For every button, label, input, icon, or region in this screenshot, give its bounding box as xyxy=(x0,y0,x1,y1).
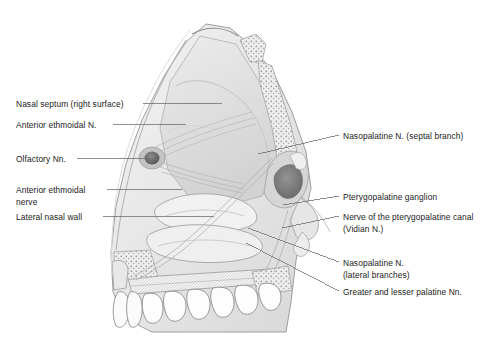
label-lateral-nasal-wall: Lateral nasal wall xyxy=(16,212,82,224)
label-anterior-ethmoidal-nerve-line2: nerve xyxy=(16,197,37,209)
label-vidian-nerve: Nerve of the pterygopalatine canal xyxy=(343,212,473,224)
label-nasopalatine-septal-branch: Nasopalatine N. (septal branch) xyxy=(343,131,463,143)
tooth xyxy=(142,293,163,323)
label-anterior-ethmoidal-nerve: Anterior ethmoidal xyxy=(16,185,85,197)
label-pterygopalatine-ganglion: Pterygopalatine ganglion xyxy=(343,192,437,204)
label-anterior-ethmoidal-n: Anterior ethmoidal N. xyxy=(16,120,96,132)
illustration-body xyxy=(111,24,330,332)
label-nasopalatine-lateral: Nasopalatine N. xyxy=(343,258,404,270)
label-olfactory-nn: Olfactory Nn. xyxy=(16,154,66,166)
incisor-tooth xyxy=(127,292,143,328)
label-nasopalatine-lateral-line2: (lateral branches) xyxy=(343,270,410,282)
anterior-nasal-spine xyxy=(112,260,128,290)
label-nasal-septum: Nasal septum (right surface) xyxy=(16,99,124,111)
label-vidian-nerve-line2: (Vidian N.) xyxy=(343,224,383,236)
figure-canvas: Nasal septum (right surface) Anterior et… xyxy=(0,0,498,341)
label-greater-lesser-palatine: Greater and lesser palatine Nn. xyxy=(343,287,462,299)
